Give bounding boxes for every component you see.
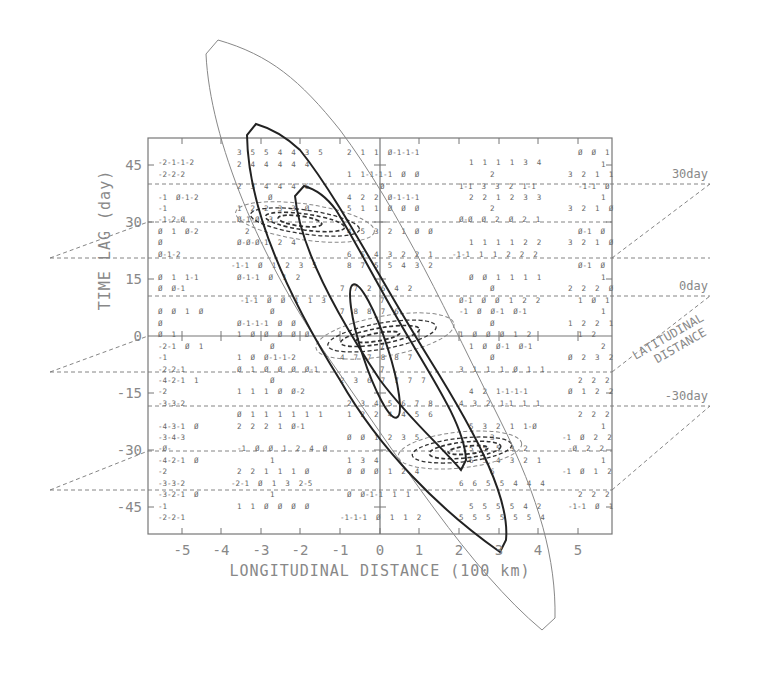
cell-value: 3 2 1 1	[568, 170, 613, 179]
cell-value: -1-1-1 Ø 1 1 2	[340, 513, 421, 522]
cell-value: Ø	[270, 376, 275, 385]
cell-value: Ø Ø 1 1 1 1	[469, 273, 541, 282]
svg-text:5: 5	[574, 542, 582, 558]
cell-value: -1 Ø 2 2	[562, 433, 612, 442]
cell-value: 6 5 4 3 2 1	[469, 456, 541, 465]
cell-value: Ø-1 Ø	[578, 261, 606, 270]
cell-value: 1	[601, 456, 606, 465]
cell-value: 2 2 2	[578, 410, 610, 419]
svg-text:3: 3	[495, 542, 503, 558]
cell-value: Ø Ø 1	[578, 148, 610, 157]
cell-value: 1 Ø Ø-1 Ø-1	[469, 342, 532, 351]
cell-value: Ø 1 1 1 1 1 1	[237, 410, 323, 419]
cell-value: 4 2 1-1-1-1	[469, 387, 528, 396]
cell-value: 3 5 5 4 4 3 5	[237, 148, 323, 157]
cell-value: 1 Ø Ø-1-1-2	[237, 353, 296, 362]
cell-value: Ø-1 Ø Ø 1 2 2	[459, 296, 540, 305]
cell-value: 1 2	[578, 330, 596, 339]
cell-value: 2	[245, 227, 250, 236]
svg-text:2: 2	[455, 542, 463, 558]
cell-value: -1 Ø 1 2	[562, 467, 612, 476]
cell-value: 1	[601, 193, 606, 202]
cell-value: 1 1 Ø Ø Ø Ø	[237, 502, 310, 511]
cell-value: 4 3 2 1-1 1 1	[459, 399, 540, 408]
cell-value: Ø-1-1-1 Ø Ø	[237, 319, 296, 328]
cell-value: Ø 1 2 2	[568, 387, 613, 396]
cell-value: -2	[158, 387, 167, 396]
cell-value: 1 Ø Ø Ø Ø Ø	[237, 330, 310, 339]
cell-value: -2-2-1	[158, 513, 185, 522]
y-axis-title: TIME LAG (day)	[96, 170, 114, 310]
cell-value: -3-4-3	[158, 433, 185, 442]
cell-value: 1 3 4	[347, 456, 379, 465]
cell-value: Ø 1	[158, 330, 176, 339]
cell-value: 5 1 1 Ø Ø Ø	[347, 204, 420, 213]
cell-value: 1	[601, 307, 606, 316]
cell-value: -3-3-2	[158, 479, 185, 488]
cell-value: -1-1 Ø	[578, 182, 610, 191]
cell-value: Ø 1 1-1	[158, 273, 199, 282]
svg-text:-15: -15	[117, 385, 142, 401]
cell-value: -1	[158, 502, 167, 511]
cell-value: Ø	[490, 319, 495, 328]
y-tick-labels: 45 30 15 0 -15 -30 -45	[117, 157, 142, 515]
cell-value: -Ø-	[158, 444, 172, 453]
x-axis-title: LONGITUDINAL DISTANCE (100 km)	[230, 562, 531, 580]
plane-30day-outline	[148, 184, 710, 222]
svg-text:0: 0	[376, 542, 384, 558]
cell-value: Ø-Ø Ø 2 Ø 2 1	[459, 215, 540, 224]
svg-text:-30: -30	[117, 442, 142, 458]
cell-value: -1	[158, 353, 167, 362]
cell-value: Ø 1 Ø Ø Ø Ø-1	[237, 365, 318, 374]
svg-text:15: 15	[125, 271, 142, 287]
cell-value: 5 5 5 5 4 2	[469, 502, 541, 511]
cell-value: -1-1 1 1 2 2 2	[452, 250, 538, 259]
cell-value: 2	[601, 342, 606, 351]
cell-value: -2-1 Ø 1 3 2-5	[231, 479, 312, 488]
cell-value: -2-1-1-2	[158, 158, 194, 167]
cell-value: 1	[270, 490, 275, 499]
svg-text:-5: -5	[174, 542, 191, 558]
cell-value: 3 2 1 Ø	[568, 204, 614, 213]
cell-value: Ø Ø 1 Ø	[158, 307, 204, 316]
cell-value: Ø 2 3 2	[568, 353, 613, 362]
cell-value: 2 2 1 1 1 Ø	[237, 467, 310, 476]
cell-value: Ø-1 Ø	[578, 227, 606, 236]
cell-value: 1	[601, 422, 606, 431]
cell-value: 2 3 4 4 4 6	[237, 182, 310, 191]
plane-label-30day: 30day	[672, 167, 708, 181]
cell-value: Ø	[270, 342, 275, 351]
cell-value: Ø-1-2	[158, 250, 181, 259]
cell-value: -1-1 Ø Ø 1 1 3	[240, 296, 326, 305]
cell-value: 3 1 1 1 Ø 1 1	[459, 365, 545, 374]
svg-text:-3: -3	[253, 542, 270, 558]
cell-value: 2 2 2 Ø	[568, 284, 614, 293]
cell-value: -4-3-1 Ø	[158, 422, 199, 431]
svg-text:-4: -4	[213, 542, 230, 558]
cell-value: -1 Ø-1-2	[158, 193, 199, 202]
svg-text:-1: -1	[332, 542, 349, 558]
svg-text:0: 0	[134, 328, 142, 344]
cell-value: 7	[380, 296, 385, 305]
cell-value: 1-1 3 3 2 1-1	[459, 182, 536, 191]
cell-value: -1-1 Ø 1	[568, 502, 613, 511]
cell-value: Ø	[158, 319, 163, 328]
cell-value: 3 2 1 Ø	[568, 238, 614, 247]
cell-value: -1 Ø Ø-1 Ø-1	[459, 307, 527, 316]
cell-value: 2 2 2 1 Ø-1	[237, 422, 305, 431]
cell-value: Ø-1-1 Ø 1 2	[237, 273, 300, 282]
cell-value: -Ø 2 2	[568, 444, 604, 453]
x-tick-labels: -5 -4 -3 -2 -1 0 1 2 3 4 5	[174, 542, 583, 558]
cell-value: Ø	[380, 182, 385, 191]
cell-value: 2 2 1 2 3 3	[469, 193, 541, 202]
cell-value: Ø	[268, 193, 273, 202]
cell-value: Ø Ø-1-1 1 1	[347, 490, 410, 499]
cell-value: Ø	[490, 353, 495, 362]
svg-text:-45: -45	[117, 499, 142, 515]
cell-value: 2	[490, 170, 495, 179]
cell-value: 1	[270, 456, 275, 465]
cell-value: 1 1 1 1 2 2	[469, 238, 541, 247]
cell-value: 1 Ø 1	[578, 296, 610, 305]
cell-value: 1 1-1-1-1 Ø Ø	[347, 170, 420, 179]
plane-label-0day: 0day	[679, 279, 708, 293]
